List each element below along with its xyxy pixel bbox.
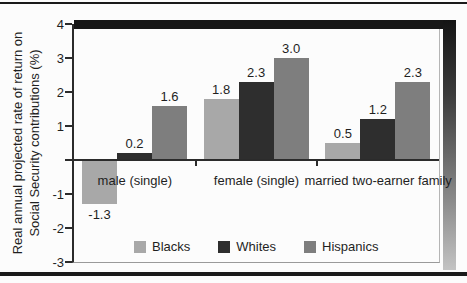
- bar-value-label: -1.3: [88, 207, 110, 222]
- y-tick-mark: [65, 193, 72, 195]
- y-tick-label: -1: [36, 187, 64, 202]
- right-shadow-bar: [443, 20, 456, 270]
- y-tick-label: 3: [36, 51, 64, 66]
- y-tick-label: 4: [36, 17, 64, 32]
- legend-swatch-icon: [304, 241, 316, 253]
- legend: BlacksWhitesHispanics: [134, 239, 378, 254]
- top-shadow-bar: [74, 20, 456, 29]
- bar: [274, 58, 309, 160]
- legend-label: Whites: [236, 239, 276, 254]
- legend-item: Hispanics: [304, 239, 378, 254]
- category-label: male (single): [98, 173, 172, 188]
- legend-label: Blacks: [152, 239, 190, 254]
- y-tick-label: 1: [36, 119, 64, 134]
- bar-value-label: 2.3: [247, 65, 265, 80]
- y-tick-mark: [65, 57, 72, 59]
- y-tick-label: 2: [36, 85, 64, 100]
- legend-swatch-icon: [134, 241, 146, 253]
- category-label: female (single): [214, 173, 299, 188]
- y-tick-mark: [65, 261, 72, 263]
- y-tick-mark: [65, 125, 72, 127]
- legend-item: Blacks: [134, 239, 190, 254]
- bar-value-label: 1.8: [212, 82, 230, 97]
- y-tick-label: -3: [36, 255, 64, 270]
- bar-value-label: 2.3: [404, 65, 422, 80]
- category-label: married two-earner family: [304, 173, 451, 188]
- legend-label: Hispanics: [322, 239, 378, 254]
- top-rule: [0, 2, 467, 4]
- bar-value-label: 3.0: [282, 41, 300, 56]
- group-separator-tick: [195, 160, 197, 166]
- bar-value-label: 1.6: [160, 89, 178, 104]
- figure: Real annual projected rate of return on …: [0, 0, 467, 283]
- zero-baseline: [74, 159, 439, 161]
- y-tick-mark: [65, 91, 72, 93]
- bar-value-label: 1.2: [369, 102, 387, 117]
- legend-swatch-icon: [218, 241, 230, 253]
- y-axis-title-line1: Real annual projected rate of return on: [10, 18, 27, 268]
- plot-area: 4321-1-2-3-1.30.21.6male (single)1.82.33…: [72, 24, 440, 263]
- y-tick-mark: [65, 159, 72, 161]
- bottom-rule: [0, 272, 467, 276]
- y-tick-mark: [65, 227, 72, 229]
- bar: [325, 143, 360, 160]
- bar-value-label: 0.5: [334, 126, 352, 141]
- group-separator-tick: [316, 160, 318, 166]
- bar: [239, 82, 274, 160]
- bar-value-label: 0.2: [125, 136, 143, 151]
- y-tick-mark: [65, 23, 72, 25]
- bar: [360, 119, 395, 160]
- y-tick-label: -2: [36, 221, 64, 236]
- bar: [395, 82, 430, 160]
- legend-item: Whites: [218, 239, 276, 254]
- bar: [204, 99, 239, 160]
- bar: [152, 106, 187, 160]
